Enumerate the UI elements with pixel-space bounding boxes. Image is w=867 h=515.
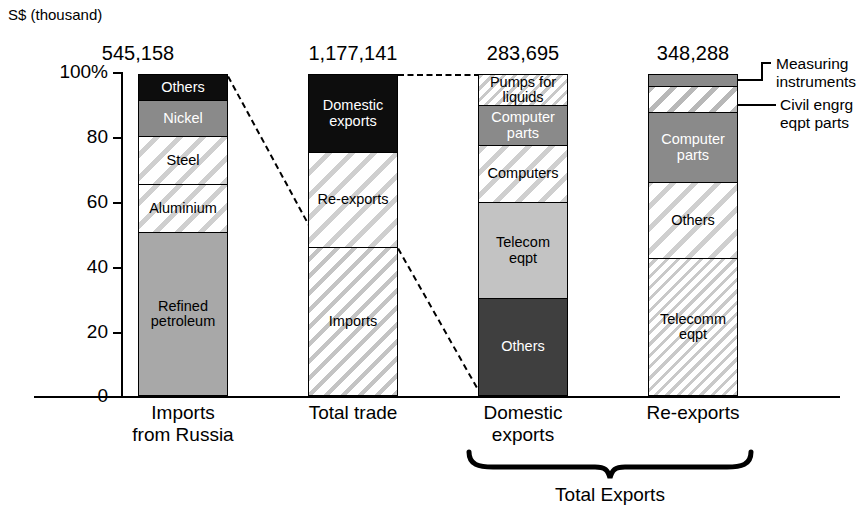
x-label-imports-from-russia: Imports from Russia: [98, 402, 268, 446]
segment-label: Imports: [327, 314, 379, 330]
segment-others: Others: [479, 298, 567, 396]
brace-total-exports: [465, 448, 755, 486]
x-label-domestic-exports: Domestic exports: [438, 402, 608, 446]
leader-line-civil-horizontal: [738, 104, 776, 106]
y-axis-line: [121, 72, 123, 397]
segment-label: Telecomm eqpt: [658, 312, 728, 343]
segment-label: Others: [159, 80, 207, 96]
segment-telecomm-eqpt: Telecomm eqpt: [649, 258, 737, 396]
y-tick-mark-20: [113, 332, 122, 334]
segment-label: Others: [499, 339, 547, 355]
callout-measuring-instruments: Measuring instruments: [776, 55, 856, 91]
segment-re-exports: Re-exports: [309, 152, 397, 247]
bar-total-trade: Domestic exports Re-exports Imports: [308, 74, 398, 396]
segment-others: Others: [649, 182, 737, 258]
y-tick-label-80: 80: [87, 127, 108, 146]
segment-refined-petroleum: Refined petroleum: [139, 232, 227, 396]
y-tick-label-40: 40: [87, 257, 108, 276]
segment-measuring-instruments: [649, 74, 737, 86]
bar-re-exports: Computer parts Others Telecomm eqpt: [648, 74, 738, 396]
segment-label: Nickel: [161, 111, 204, 127]
segment-telecom-eqpt: Telecom eqpt: [479, 202, 567, 298]
stacked-bar-chart: S$ (thousand) 100% 80 60 40 20 0 545,158…: [0, 0, 867, 515]
segment-steel: Steel: [139, 136, 227, 184]
bar-total-total-trade: 1,177,141: [283, 42, 423, 65]
y-tick-label-60: 60: [87, 192, 108, 211]
leader-line-measuring-horizontal: [738, 79, 763, 81]
segment-imports: Imports: [309, 247, 397, 396]
bar-imports-from-russia: Others Nickel Steel Aluminium Refined pe…: [138, 74, 228, 396]
y-tick-mark-80: [113, 137, 122, 139]
segment-label: Aluminium: [147, 201, 219, 217]
x-label-re-exports: Re-exports: [608, 402, 778, 424]
y-tick-mark-60: [113, 202, 122, 204]
y-tick-label-20: 20: [87, 322, 108, 341]
segment-label: Steel: [164, 153, 201, 169]
bar-total-re-exports: 348,288: [623, 42, 763, 65]
segment-label: Domestic exports: [321, 98, 385, 129]
bar-domestic-exports: Pumps for liquids Computer parts Compute…: [478, 74, 568, 396]
bar-total-domestic-exports: 283,695: [453, 42, 593, 65]
bar-total-imports-russia: 545,158: [68, 42, 208, 65]
segment-label: Others: [669, 213, 717, 229]
segment-others: Others: [139, 74, 227, 100]
segment-computers: Computers: [479, 145, 567, 202]
segment-aluminium: Aluminium: [139, 184, 227, 232]
segment-pumps-for-liquids: Pumps for liquids: [479, 74, 567, 105]
segment-label: Telecom eqpt: [494, 235, 552, 266]
callout-civil-engrg-eqpt-parts: Civil engrg eqpt parts: [780, 96, 853, 132]
y-tick-mark-40: [113, 267, 122, 269]
segment-label: Computer parts: [489, 110, 557, 141]
y-tick-mark-100: [113, 72, 122, 74]
leader-line-measuring-top: [761, 62, 771, 64]
connector-dashed-2: [397, 248, 482, 397]
brace-label-total-exports: Total Exports: [465, 484, 755, 506]
x-axis-line: [34, 396, 840, 398]
segment-label: Computers: [486, 166, 561, 182]
segment-civil-engrg-eqpt-parts: [649, 86, 737, 112]
segment-label: Re-exports: [316, 192, 391, 208]
segment-label: Computer parts: [659, 132, 727, 163]
segment-label: Refined petroleum: [149, 299, 217, 330]
segment-label: Pumps for liquids: [488, 75, 558, 106]
segment-domestic-exports: Domestic exports: [309, 74, 397, 152]
y-axis-unit-label: S$ (thousand): [8, 6, 102, 23]
leader-line-measuring-vertical: [761, 62, 763, 81]
segment-computer-parts: Computer parts: [649, 112, 737, 182]
segment-nickel: Nickel: [139, 100, 227, 136]
segment-computer-parts: Computer parts: [479, 105, 567, 145]
connector-dashed-top-horizontal: [398, 74, 480, 76]
x-label-total-trade: Total trade: [268, 402, 438, 424]
